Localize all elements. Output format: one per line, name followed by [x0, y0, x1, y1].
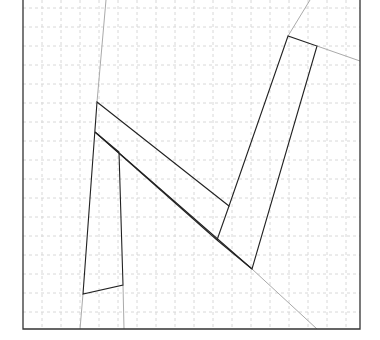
grid: [23, 0, 360, 329]
shape-segment: [217, 206, 229, 240]
diagram-canvas: [0, 0, 380, 340]
extension-line: [252, 269, 317, 329]
extension-lines: [80, 0, 360, 329]
extension-line: [80, 294, 83, 329]
extension-line: [97, 0, 106, 102]
extension-line: [123, 285, 124, 329]
extension-line: [317, 46, 360, 61]
extension-line: [288, 0, 310, 36]
frame: [23, 0, 360, 329]
frame-border: [23, 0, 360, 329]
